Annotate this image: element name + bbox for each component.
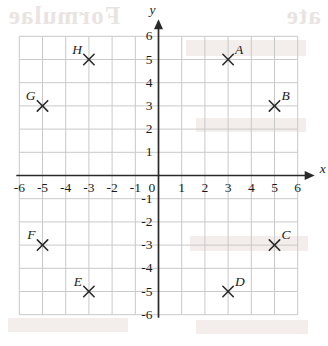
y-tick-label-neg3: -3 bbox=[141, 238, 152, 252]
point-label-F: F bbox=[27, 228, 35, 242]
cartesian-grid-svg bbox=[0, 0, 328, 346]
x-tick-label-6: 6 bbox=[294, 181, 301, 195]
y-tick-label-neg5: -5 bbox=[141, 285, 152, 299]
point-label-C: C bbox=[282, 228, 291, 242]
y-tick-label-neg6: -6 bbox=[141, 308, 152, 322]
y-tick-label-neg1: -1 bbox=[141, 192, 152, 206]
y-axis-name: y bbox=[150, 3, 156, 17]
x-axis-name: x bbox=[320, 162, 326, 176]
x-tick-label-neg6: -6 bbox=[14, 181, 25, 195]
x-tick-label-neg3: -3 bbox=[83, 181, 94, 195]
axes bbox=[16, 19, 314, 317]
x-tick-label-neg2: -2 bbox=[106, 181, 117, 195]
x-tick-label-neg1: -1 bbox=[130, 181, 141, 195]
x-tick-label-3: 3 bbox=[225, 181, 232, 195]
coordinate-plane-figure: Formulae ate -6-5-4-3-2-10123456654321-1… bbox=[0, 0, 328, 346]
x-tick-label-4: 4 bbox=[248, 181, 255, 195]
point-label-E: E bbox=[74, 275, 82, 289]
point-label-D: D bbox=[235, 275, 245, 289]
y-tick-label-5: 5 bbox=[146, 53, 153, 67]
point-label-B: B bbox=[282, 89, 290, 103]
x-tick-label-2: 2 bbox=[202, 181, 209, 195]
point-label-G: G bbox=[26, 89, 36, 103]
y-tick-label-4: 4 bbox=[146, 76, 153, 90]
x-tick-label-neg4: -4 bbox=[60, 181, 71, 195]
x-tick-label-neg5: -5 bbox=[37, 181, 48, 195]
y-tick-label-neg2: -2 bbox=[141, 215, 152, 229]
y-tick-label-3: 3 bbox=[146, 99, 153, 113]
y-tick-label-1: 1 bbox=[146, 145, 153, 159]
y-tick-label-neg4: -4 bbox=[141, 261, 152, 275]
y-tick-label-6: 6 bbox=[146, 29, 153, 43]
x-tick-label-1: 1 bbox=[178, 181, 185, 195]
point-label-H: H bbox=[72, 43, 82, 57]
point-label-A: A bbox=[235, 43, 243, 57]
x-tick-label-5: 5 bbox=[271, 181, 278, 195]
y-tick-label-2: 2 bbox=[146, 122, 153, 136]
